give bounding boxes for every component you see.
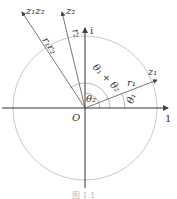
- caption: 图 1.1: [72, 191, 95, 199]
- complex-multiplication-diagram: z₁z₂ z₂ z₁ r₁r₂ r₂ r₁ θ₁ θ₂ θ₁ + θ₂ O 1 …: [0, 0, 177, 199]
- label-real-unit: 1: [165, 113, 171, 124]
- label-r2: r₂: [70, 28, 83, 39]
- label-r1r2: r₁r₂: [40, 35, 59, 56]
- label-theta-sum: θ₁ + θ₂: [91, 62, 123, 94]
- label-z1z2: z₁z₂: [25, 5, 45, 16]
- label-origin: O: [72, 112, 80, 123]
- label-theta2: θ₂: [86, 93, 96, 104]
- label-theta1: θ₁: [124, 92, 138, 105]
- label-z1: z₁: [147, 66, 157, 77]
- label-imag-unit: i: [90, 25, 93, 36]
- label-z2: z₂: [65, 5, 75, 16]
- vector-z2: [62, 12, 85, 108]
- label-r1: r₁: [127, 77, 136, 88]
